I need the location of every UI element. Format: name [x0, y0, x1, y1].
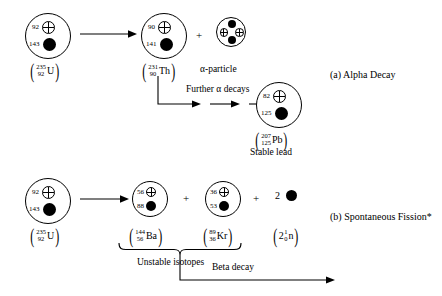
- proton-count-label: 56: [137, 189, 144, 196]
- neutron-count-label: 143: [29, 41, 40, 48]
- isotope-label-uranium-alpha: ( 235 92 U ): [29, 63, 61, 79]
- paren-close: ): [55, 63, 59, 79]
- neutron-icon: [43, 203, 56, 216]
- neutron-icon: [286, 190, 297, 201]
- element-symbol: Ba: [146, 231, 157, 241]
- element-symbol: Kr: [217, 231, 228, 241]
- neutron-count-label: 125: [261, 110, 272, 117]
- paren-open: (: [255, 132, 259, 148]
- element-symbol: n: [288, 231, 293, 241]
- proton-count-label: 82: [263, 93, 270, 100]
- paren-close: ): [55, 228, 59, 244]
- paren-open: (: [203, 228, 207, 244]
- paren-open: (: [273, 228, 277, 244]
- nucleus-thorium: 90 141: [141, 13, 187, 59]
- free-neutrons-group: 2: [275, 190, 297, 201]
- element-symbol: U: [47, 66, 54, 76]
- paren-open: (: [142, 63, 146, 79]
- paren-close: ): [158, 228, 162, 244]
- element-symbol: Pb: [272, 135, 283, 145]
- arrow-beta-decay: [178, 255, 338, 287]
- nucleus-uranium-fission: 92 143: [25, 178, 71, 224]
- plus-sign-alpha: +: [196, 30, 202, 41]
- proton-icon: [158, 21, 171, 34]
- neutron-coefficient: 2: [275, 191, 280, 201]
- paren-open: (: [30, 63, 34, 79]
- proton-count-label: 92: [32, 24, 39, 31]
- paren-open: (: [129, 228, 133, 244]
- proton-count-label: 92: [32, 189, 39, 196]
- nucleus-lead: 82 125: [256, 82, 302, 128]
- neutron-icon: [219, 201, 229, 211]
- nucleus-krypton: 36 53: [205, 181, 241, 217]
- isotope-label-lead: ( 207 125 Pb ): [254, 132, 289, 148]
- proton-icon: [42, 186, 55, 199]
- isotope-label-barium: ( 144 56 Ba ): [128, 228, 164, 244]
- atomic-number: 92: [38, 71, 45, 78]
- neutron-count-label: 143: [29, 206, 40, 213]
- proton-count-label: 90: [148, 24, 155, 31]
- isotope-label-uranium-fission: ( 235 92 U ): [29, 228, 61, 244]
- atomic-number: 125: [261, 140, 271, 147]
- neutron-prefix: 2: [279, 231, 284, 241]
- alpha-particle-label: α-particle: [200, 65, 237, 75]
- nucleus-barium: 56 88: [132, 181, 168, 217]
- proton-icon: [273, 90, 286, 103]
- neutron-icon: [228, 36, 236, 44]
- caption-spontaneous-fission: (b) Spontaneous Fission*: [330, 212, 432, 222]
- proton-icon: [146, 187, 156, 197]
- atomic-number: 56: [137, 236, 144, 243]
- paren-open: (: [30, 228, 34, 244]
- neutron-count-label: 141: [146, 41, 157, 48]
- isotope-label-krypton: ( 89 36 Kr ): [202, 228, 234, 244]
- proton-icon: [220, 28, 229, 37]
- nuclear-decay-figure: 92 143 ( 235 92 U ) 90 141: [0, 0, 442, 296]
- neutron-icon: [43, 38, 56, 51]
- neutron-icon: [146, 201, 156, 211]
- element-symbol: Th: [159, 66, 170, 76]
- proton-icon: [219, 187, 229, 197]
- isotope-label-neutron: ( 2 1 0 n ): [272, 228, 300, 244]
- neutron-count-label: 53: [210, 203, 217, 210]
- caption-alpha-decay: (a) Alpha Decay: [330, 70, 396, 80]
- atomic-number: 36: [209, 236, 216, 243]
- arrow-fission-main: [80, 193, 130, 205]
- paren-close: ): [284, 132, 288, 148]
- arrow-alpha-decay-main: [80, 28, 138, 40]
- paren-close: ): [295, 228, 299, 244]
- paren-close: ): [229, 228, 233, 244]
- further-decays-label: Further α decays: [186, 85, 250, 95]
- atomic-number: 0: [284, 236, 287, 243]
- proton-icon: [42, 21, 55, 34]
- nucleus-uranium-alpha: 92 143: [25, 13, 71, 59]
- plus-sign-fission-1: +: [183, 193, 189, 204]
- neutron-count-label: 88: [137, 203, 144, 210]
- neutron-icon: [160, 38, 173, 51]
- neutron-icon: [275, 107, 288, 120]
- proton-count-label: 36: [210, 189, 217, 196]
- stable-lead-label: Stable lead: [250, 148, 292, 158]
- element-symbol: U: [47, 231, 54, 241]
- alpha-particle-cluster: [216, 17, 246, 47]
- neutron-icon: [228, 20, 236, 28]
- plus-sign-fission-2: +: [253, 193, 259, 204]
- proton-icon: [235, 28, 244, 37]
- atomic-number: 92: [38, 236, 45, 243]
- beta-decay-label: Beta decay: [212, 263, 254, 273]
